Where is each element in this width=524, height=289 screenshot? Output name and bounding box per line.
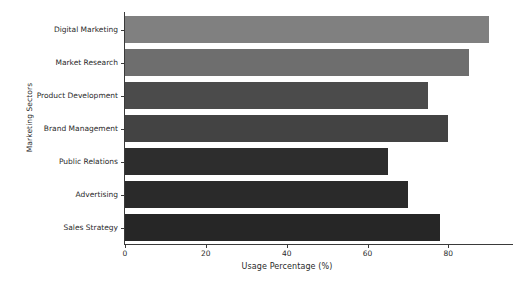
y-tick-mark [121,129,124,130]
x-tick-label: 60 [353,249,383,258]
bar-rect [125,181,408,208]
y-tick-label: Digital Marketing [0,25,118,34]
y-tick-mark [121,96,124,97]
bar-brand-management [125,115,448,142]
y-tick-mark [121,30,124,31]
bar-rect [125,115,448,142]
bar-digital-marketing [125,16,489,43]
y-tick-mark [121,228,124,229]
bar-advertising [125,181,408,208]
x-tick-label: 20 [191,249,221,258]
y-tick-mark [121,195,124,196]
bar-chart-figure: Marketing Sectors Digital MarketingMarke… [0,0,524,289]
y-tick-mark [121,63,124,64]
bar-rect [125,49,469,76]
y-tick-label: Brand Management [0,124,118,133]
x-tick-label: 40 [272,249,302,258]
bar-rect [125,16,489,43]
bar-public-relations [125,148,388,175]
x-tick-mark [125,245,126,248]
bar-sales-strategy [125,214,440,241]
x-tick-mark [448,245,449,248]
y-tick-label: Advertising [0,190,118,199]
y-tick-label: Sales Strategy [0,223,118,232]
x-axis-label: Usage Percentage (%) [125,262,449,271]
bar-rect [125,148,388,175]
y-tick-label: Public Relations [0,157,118,166]
x-tick-label: 0 [110,249,140,258]
y-tick-label: Product Development [0,91,118,100]
x-tick-mark [206,245,207,248]
x-tick-mark [287,245,288,248]
bar-rect [125,214,440,241]
x-tick-mark [368,245,369,248]
bar-market-research [125,49,469,76]
x-tick-label: 80 [433,249,463,258]
bar-product-development [125,82,428,109]
bar-rect [125,82,428,109]
y-tick-mark [121,162,124,163]
y-tick-label: Market Research [0,58,118,67]
